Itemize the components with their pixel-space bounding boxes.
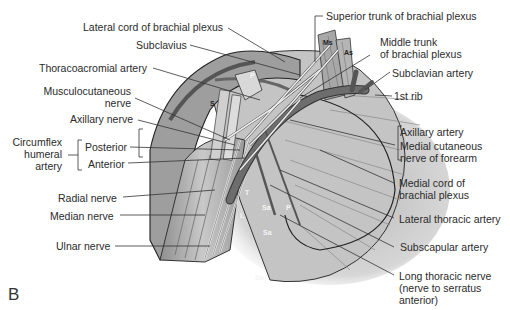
label-p-top: P [250, 72, 255, 79]
label-medial-cord: Medial cord of brachial plexus [399, 177, 469, 201]
label-median-nerve: Median nerve [50, 210, 114, 222]
label-long-thoracic-nerve: Long thoracic nerve (nerve to serratus a… [399, 270, 491, 306]
label-ulnar-nerve: Ulnar nerve [56, 240, 110, 252]
label-first-rib: 1st rib [394, 90, 423, 102]
label-subscapular-artery: Subscapular artery [400, 241, 488, 253]
label-radial-nerve: Radial nerve [58, 192, 117, 204]
label-axillary-nerve: Axillary nerve [70, 113, 133, 125]
label-t: T [245, 189, 250, 196]
label-musculocutaneous-nerve: Musculocutaneous nerve [41, 85, 131, 109]
label-axillary-artery: Axillary artery [400, 126, 464, 138]
label-circumflex-humeral-artery: Circumflex humeral artery [10, 136, 62, 172]
label-anterior: Anterior [88, 158, 125, 170]
label-sa-3: Sa [255, 274, 264, 281]
label-subclavius: Subclavius [136, 39, 187, 51]
label-sa-2: Sa [263, 229, 272, 236]
label-lateral-thoracic-artery: Lateral thoracic artery [399, 213, 501, 225]
label-l: L [240, 212, 245, 219]
label-as: As [344, 49, 353, 56]
label-lateral-cord: Lateral cord of brachial plexus [83, 21, 223, 33]
label-thoracoacromial-artery: Thoracoacromial artery [39, 62, 147, 74]
panel-label: B [8, 285, 19, 305]
label-middle-trunk: Middle trunk of brachial plexus [380, 36, 462, 60]
label-medial-cutaneous-nerve: Medial cutaneous nerve of forearm [400, 140, 482, 164]
label-p-mid: P [286, 204, 291, 211]
label-sa-1: Sa [262, 204, 271, 211]
label-ms: Ms [323, 39, 333, 46]
label-superior-trunk: Superior trunk of brachial plexus [326, 10, 477, 22]
label-subclavian-artery: Subclavian artery [392, 67, 473, 79]
label-posterior: Posterior [85, 141, 127, 153]
label-s: S [210, 100, 215, 107]
